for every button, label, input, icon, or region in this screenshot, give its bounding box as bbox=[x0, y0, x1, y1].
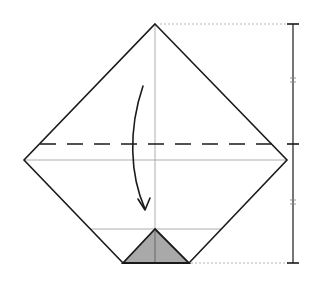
fold-arrow-shaft bbox=[133, 86, 145, 209]
fold-arrow bbox=[133, 86, 150, 210]
arrowhead-icon bbox=[138, 198, 150, 210]
origami-diagram bbox=[0, 0, 312, 291]
shaded-flap bbox=[123, 229, 189, 263]
measurement-bar bbox=[287, 24, 299, 263]
